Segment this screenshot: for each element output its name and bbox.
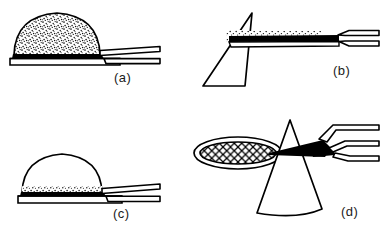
black-channel [229, 35, 339, 47]
panel-a: (a) [0, 0, 194, 118]
capillary-tube [338, 31, 379, 47]
panel-d: (d) [193, 117, 387, 235]
panel-label-c: (c) [113, 206, 130, 221]
triangle-wedge [203, 13, 252, 86]
channel-top-stipple [243, 31, 321, 36]
panel-c-drawing [0, 117, 194, 235]
capillary-tube [102, 184, 160, 202]
panel-a-drawing [0, 0, 194, 118]
panel-b-drawing [193, 0, 387, 118]
funnel-cone [257, 120, 322, 216]
figure-canvas: (a) [0, 0, 387, 235]
panel-label-b: (b) [333, 63, 350, 78]
settled-stipple-layer [22, 186, 102, 193]
capillary-tube [100, 47, 160, 64]
stippled-dome [14, 13, 100, 55]
panel-label-d: (d) [341, 204, 358, 219]
panel-label-a: (a) [114, 70, 131, 85]
panel-c: (c) [0, 117, 194, 235]
panel-b: (b) [193, 0, 387, 118]
